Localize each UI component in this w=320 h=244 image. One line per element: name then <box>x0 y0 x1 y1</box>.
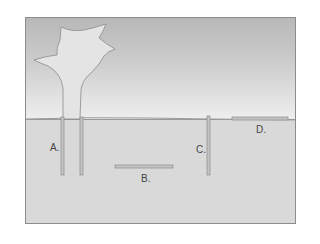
rod-a-right <box>80 117 83 175</box>
rod-a-left <box>61 117 64 175</box>
label-c: C. <box>196 144 206 155</box>
scene-drawing <box>26 18 296 224</box>
label-b: B. <box>141 173 150 184</box>
rod-d <box>232 117 288 120</box>
tree-icon <box>34 24 115 119</box>
diagram-frame: A. B. C. D. <box>25 17 296 224</box>
rod-b <box>115 165 173 168</box>
label-a: A. <box>50 142 59 153</box>
label-d: D. <box>256 124 266 135</box>
rod-c <box>207 116 210 175</box>
